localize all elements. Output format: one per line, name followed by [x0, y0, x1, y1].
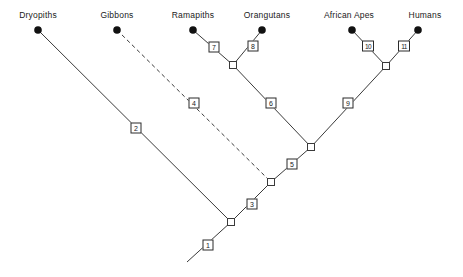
branch-number-box-6: 6 — [266, 98, 277, 109]
taxon-dot-gibbons — [113, 26, 121, 34]
branch-number-box-9: 9 — [343, 98, 354, 109]
branch-number-box-5: 5 — [287, 159, 298, 170]
phylogenetic-tree-diagram: DryopithsGibbonsRamapithsOrangutansAfric… — [0, 0, 463, 277]
taxon-label-humans: Humans — [409, 10, 442, 20]
branch-line-layer — [38, 30, 418, 262]
branch-number-box-11: 11 — [398, 41, 410, 52]
taxon-dot-orangutans — [258, 26, 266, 34]
taxon-label-africanapes: African Apes — [324, 10, 374, 20]
taxon-dot-africanapes — [348, 26, 356, 34]
n-root — [228, 219, 235, 226]
taxon-label-gibbons: Gibbons — [100, 10, 133, 20]
n-orang-rama — [230, 62, 237, 69]
taxon-dot-humans — [414, 26, 422, 34]
taxon-dot-ramapiths — [189, 26, 197, 34]
branch-number-box-2: 2 — [131, 123, 142, 134]
taxon-dot-dryopiths — [34, 26, 42, 34]
taxon-label-dryopiths: Dryopiths — [19, 10, 57, 20]
taxon-label-ramapiths: Ramapiths — [172, 10, 214, 20]
branch-number-box-8: 8 — [248, 41, 259, 52]
taxon-label-orangutans: Orangutans — [244, 10, 290, 20]
branch-number-box-1: 1 — [203, 240, 214, 251]
tree-svg-canvas — [0, 0, 463, 277]
n-great-ape — [308, 144, 315, 151]
branch-number-box-4: 4 — [189, 98, 200, 109]
n-gibbon — [268, 179, 275, 186]
branch-number-box-3: 3 — [247, 199, 258, 210]
branch-number-box-10: 10 — [362, 41, 374, 52]
branch-number-box-7: 7 — [209, 42, 220, 53]
terminal-taxon-dot-layer — [34, 26, 422, 34]
n-afr-hum — [383, 63, 390, 70]
